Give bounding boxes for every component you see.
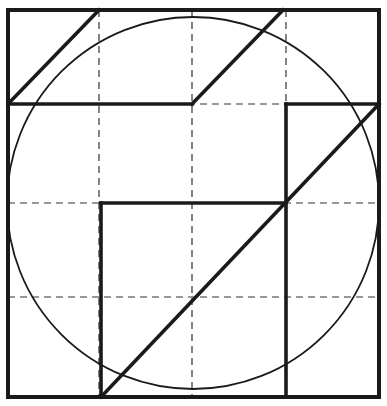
long-diagonal-line [101,104,379,397]
top-left-diagonal-line [8,10,99,104]
geometric-diagram [0,0,387,406]
diagram-canvas [0,0,387,406]
top-mid-diagonal-line [192,10,283,104]
